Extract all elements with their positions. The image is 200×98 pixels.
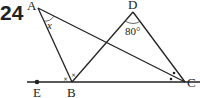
segment-db [72,12,133,82]
label-c: C [187,75,196,90]
label-b: B [67,85,76,98]
bisector-mark-b-right: × [71,71,76,78]
bisector-mark-c-lower [170,78,173,81]
angle-d-label: 80° [125,25,140,37]
problem-number: 24 [0,1,24,24]
label-e: E [33,85,41,98]
geometry-figure: 24 A D B E C x 80° × × [0,0,200,98]
bisector-mark-b-left: × [63,75,68,82]
angle-d-arc [125,21,141,24]
angle-x-label: x [46,19,52,31]
label-d: D [128,0,137,12]
bisector-mark-c-upper [173,72,176,75]
segment-ab [38,8,72,82]
segment-dc [133,12,185,82]
label-a: A [27,0,37,13]
segment-ac [38,8,185,82]
point-e-dot [35,80,40,85]
